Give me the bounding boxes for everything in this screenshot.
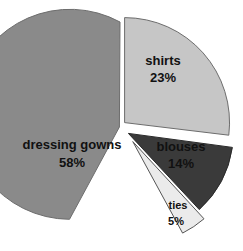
slice-label-shirts-value: 23% (150, 70, 176, 85)
slice-label-shirts-name: shirts (145, 53, 180, 68)
slice-label-blouses-name: blouses (156, 139, 205, 154)
slice-label-ties-name: ties (169, 199, 188, 211)
pie-slice-dressing-gowns[interactable] (0, 9, 120, 219)
pie-slice-shirts[interactable] (125, 18, 230, 136)
slice-label-dressing-gowns-value: 58% (59, 155, 85, 170)
slice-label-ties-value: 5% (168, 215, 184, 227)
slice-label-blouses-value: 14% (168, 156, 194, 171)
pie-chart-svg: shirts 23% blouses 14% ties 5% dressing … (0, 0, 243, 251)
pie-chart-figure: shirts 23% blouses 14% ties 5% dressing … (0, 0, 243, 251)
slice-label-dressing-gowns-name: dressing gowns (23, 137, 122, 152)
